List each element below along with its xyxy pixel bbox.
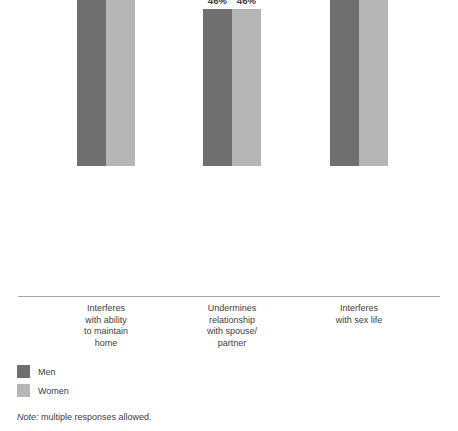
- bar-wrap-men: 66%: [77, 0, 106, 166]
- category-label-line: relationship: [177, 315, 287, 327]
- bar-wrap-men: 46%: [203, 0, 232, 166]
- category-label-1: Interferes with ability to maintain home: [51, 303, 161, 349]
- footnote-text: multiple responses allowed.: [39, 412, 152, 422]
- legend-item-women[interactable]: Women: [17, 381, 197, 400]
- category-label-line: Interferes: [51, 303, 161, 315]
- chart-legend: Men Women: [17, 362, 197, 400]
- bar-men[interactable]: [330, 0, 359, 166]
- bar-chart: 66% 77% 46% 46% 49%: [0, 0, 458, 300]
- category-label-line: with ability: [51, 315, 161, 327]
- bar-wrap-women: 77%: [106, 0, 135, 166]
- bar-women[interactable]: [232, 9, 261, 166]
- category-label-line: Undermines: [177, 303, 287, 315]
- bar-men[interactable]: [203, 9, 232, 166]
- bar-women[interactable]: [106, 0, 135, 166]
- legend-swatch-men-icon: [17, 365, 30, 378]
- x-axis-line: [18, 296, 440, 297]
- category-label-line: with sex life: [304, 315, 414, 327]
- bar-men[interactable]: [77, 0, 106, 166]
- bar-value-women: 46%: [225, 0, 269, 6]
- category-label-2: Undermines relationship with spouse/ par…: [177, 303, 287, 349]
- legend-label-men: Men: [38, 367, 56, 377]
- legend-swatch-women-icon: [17, 384, 30, 397]
- category-label-line: Interferes: [304, 303, 414, 315]
- bar-wrap-women: 46%: [232, 0, 261, 166]
- category-label-line: home: [51, 338, 161, 350]
- category-label-line: with spouse/: [177, 326, 287, 338]
- category-label-line: to maintain: [51, 326, 161, 338]
- category-label-line: partner: [177, 338, 287, 350]
- footnote-note-word: Note:: [17, 412, 39, 422]
- legend-label-women: Women: [38, 386, 69, 396]
- bar-wrap-women: 53%: [359, 0, 388, 166]
- category-label-3: Interferes with sex life: [304, 303, 414, 326]
- legend-item-men[interactable]: Men: [17, 362, 197, 381]
- chart-footnote: Note: multiple responses allowed.: [17, 412, 152, 422]
- bar-women[interactable]: [359, 0, 388, 166]
- bar-wrap-men: 49%: [330, 0, 359, 166]
